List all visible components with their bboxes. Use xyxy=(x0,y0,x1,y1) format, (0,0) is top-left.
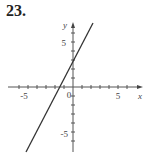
coordinate-plane: -5 0 5 x 5 -5 y xyxy=(0,0,150,157)
x-tick-label-5: 5 xyxy=(116,91,121,101)
y-axis-arrow-icon xyxy=(71,22,75,28)
y-tick-label-5: 5 xyxy=(62,38,67,48)
origin-label: 0 xyxy=(67,90,72,100)
y-axis-label: y xyxy=(62,20,67,30)
x-tick-label-neg5: -5 xyxy=(20,91,28,101)
y-tick-label-neg5: -5 xyxy=(61,129,69,139)
x-axis-arrow-icon xyxy=(137,85,143,89)
x-axis-label: x xyxy=(137,91,142,101)
